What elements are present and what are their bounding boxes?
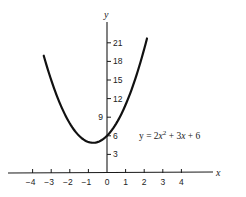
- equation-prefix: y = 2: [139, 131, 159, 141]
- x-tick-label: −1: [82, 177, 92, 187]
- x-tick-label: −3: [44, 177, 54, 187]
- y-tick-label: 9: [98, 112, 103, 122]
- y-tick-label: 15: [113, 75, 123, 85]
- x-tick-label: 2: [142, 177, 147, 187]
- x-axis: [8, 172, 213, 173]
- x-tick-label: 1: [123, 177, 128, 187]
- equation-suffix: + 6: [185, 131, 200, 141]
- equation-annotation: y = 2x2 + 3x + 6: [139, 129, 201, 141]
- parabola-curve: [44, 38, 147, 142]
- axes: [8, 22, 213, 173]
- y-tick-label: 3: [113, 149, 118, 159]
- parabola-chart: −4−3−2−101234 36912151821 x y y = 2x2 + …: [0, 0, 246, 197]
- x-tick-label: −4: [26, 177, 36, 187]
- y-axis-label: y: [103, 9, 109, 20]
- x-tick-label: 4: [179, 177, 184, 187]
- equation-middle: + 3: [166, 131, 181, 141]
- x-tick-label: 3: [160, 177, 165, 187]
- x-tick-label: 0: [105, 177, 110, 187]
- y-tick-label: 21: [113, 38, 123, 48]
- x-tick-label: −2: [63, 177, 73, 187]
- x-axis-label: x: [215, 167, 221, 178]
- y-tick-label: 18: [113, 56, 123, 66]
- y-tick-label: 12: [113, 94, 123, 104]
- y-tick-label: 6: [113, 131, 118, 141]
- x-axis-ticks: −4−3−2−101234: [26, 169, 184, 187]
